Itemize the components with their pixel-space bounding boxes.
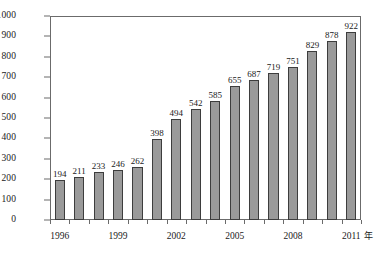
x-axis-tick-mark xyxy=(206,220,207,224)
bar-slot: 246 xyxy=(113,16,123,220)
x-axis-tick-mark xyxy=(108,220,109,224)
y-axis-tick-label: 800 xyxy=(0,52,16,62)
bar[interactable] xyxy=(288,67,298,220)
bar-value-label: 246 xyxy=(111,160,125,169)
bar[interactable] xyxy=(249,80,259,220)
y-axis-tick-label: 0 xyxy=(0,215,16,225)
bar[interactable] xyxy=(132,167,142,220)
x-axis-tick-mark xyxy=(322,220,323,224)
y-axis-tick-label: 500 xyxy=(0,113,16,123)
bar-value-label: 687 xyxy=(247,70,261,79)
x-axis-tick-mark xyxy=(147,220,148,224)
x-axis-tick-label: 1999 xyxy=(109,231,128,242)
x-axis-tick-mark xyxy=(69,220,70,224)
bar[interactable] xyxy=(327,41,337,220)
x-axis-ticks xyxy=(50,220,361,228)
bar-slot: 211 xyxy=(74,16,84,220)
bar-value-label: 751 xyxy=(286,57,300,66)
x-axis-tick-mark xyxy=(225,220,226,224)
y-axis-tick-label: 100 xyxy=(0,195,16,205)
bars-layer: 1942112332462623984945425856556877197518… xyxy=(50,16,361,220)
bar[interactable] xyxy=(152,139,162,220)
bar-value-label: 542 xyxy=(189,99,203,108)
x-axis-tick-label: 2011 xyxy=(342,231,361,242)
bar-slot: 922 xyxy=(346,16,356,220)
bar-value-label: 878 xyxy=(325,31,339,40)
bar-slot: 494 xyxy=(171,16,181,220)
bar[interactable] xyxy=(113,170,123,220)
bar[interactable] xyxy=(346,32,356,220)
y-axis-tick-label: 700 xyxy=(0,72,16,82)
x-axis-tick-mark xyxy=(50,220,51,224)
bar-value-label: 585 xyxy=(208,91,222,100)
bar-value-label: 922 xyxy=(345,22,359,31)
bar[interactable] xyxy=(307,51,317,220)
x-axis-tick-mark xyxy=(361,220,362,224)
bar[interactable] xyxy=(74,177,84,220)
bar[interactable] xyxy=(94,172,104,220)
bar-slot: 262 xyxy=(132,16,142,220)
x-axis-tick-mark xyxy=(167,220,168,224)
x-axis-tick-mark xyxy=(264,220,265,224)
bar-slot: 585 xyxy=(210,16,220,220)
bar-value-label: 211 xyxy=(73,167,86,176)
x-axis-tick-mark xyxy=(303,220,304,224)
y-axis: 01002003004005006007008009001000 xyxy=(0,0,50,266)
x-axis-tick-label: 2008 xyxy=(283,231,302,242)
bar-value-label: 233 xyxy=(92,162,106,171)
y-axis-tick-label: 400 xyxy=(0,134,16,144)
bar[interactable] xyxy=(210,101,220,220)
x-axis-tick-label: 2005 xyxy=(225,231,244,242)
bar-value-label: 719 xyxy=(267,63,281,72)
bar[interactable] xyxy=(268,73,278,220)
x-axis-unit-label: 年 xyxy=(364,230,373,242)
y-axis-tick-label: 200 xyxy=(0,174,16,184)
bar-slot: 687 xyxy=(249,16,259,220)
x-axis-tick-mark xyxy=(283,220,284,224)
bar[interactable] xyxy=(230,86,240,220)
y-axis-tick-label: 600 xyxy=(0,93,16,103)
bar-slot: 398 xyxy=(152,16,162,220)
bar-slot: 719 xyxy=(268,16,278,220)
x-axis-tick-label: 2002 xyxy=(167,231,186,242)
bar-slot: 194 xyxy=(55,16,65,220)
bar[interactable] xyxy=(191,109,201,220)
bar-chart: 01002003004005006007008009001000 亿 kWh 1… xyxy=(0,0,384,266)
x-axis-tick-mark xyxy=(186,220,187,224)
bar-value-label: 655 xyxy=(228,76,242,85)
x-axis-tick-mark xyxy=(128,220,129,224)
y-axis-tick-label: 1000 xyxy=(0,11,16,21)
bar-value-label: 194 xyxy=(53,170,67,179)
x-axis-tick-mark xyxy=(244,220,245,224)
bar-slot: 829 xyxy=(307,16,317,220)
x-axis-tick-mark xyxy=(342,220,343,224)
bar-value-label: 398 xyxy=(150,129,164,138)
y-axis-tick-label: 900 xyxy=(0,32,16,42)
bar-slot: 233 xyxy=(94,16,104,220)
bar-slot: 655 xyxy=(230,16,240,220)
bar-value-label: 494 xyxy=(170,109,184,118)
bar-slot: 878 xyxy=(327,16,337,220)
bar[interactable] xyxy=(171,119,181,220)
x-axis-tick-mark xyxy=(89,220,90,224)
bar[interactable] xyxy=(55,180,65,220)
bar-value-label: 829 xyxy=(306,41,320,50)
bar-slot: 751 xyxy=(288,16,298,220)
bar-slot: 542 xyxy=(191,16,201,220)
x-axis-tick-label: 1996 xyxy=(50,231,69,242)
bar-value-label: 262 xyxy=(131,157,145,166)
x-axis-labels: 199619992002200520082011 xyxy=(50,231,361,245)
y-axis-tick-label: 300 xyxy=(0,154,16,164)
